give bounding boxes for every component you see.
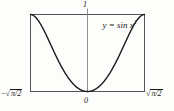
figure-container: 1 0 −√π/2 √π/2 y = sin x2 <box>0 0 174 111</box>
x-max-radical: √π/2 <box>146 89 163 98</box>
x-min-label: −√π/2 <box>1 89 22 98</box>
x-min-radical: √π/2 <box>6 89 23 98</box>
x-max-label: √π/2 <box>146 89 163 98</box>
x-max-radicand: π/2 <box>150 89 162 98</box>
y-max-label: 1 <box>83 1 87 9</box>
equation-text: y = sin x <box>102 20 133 30</box>
equation-label: y = sin x2 <box>102 20 136 30</box>
x-min-radicand: π/2 <box>10 89 22 98</box>
equation-exponent: 2 <box>134 19 137 25</box>
origin-label: 0 <box>84 97 88 105</box>
